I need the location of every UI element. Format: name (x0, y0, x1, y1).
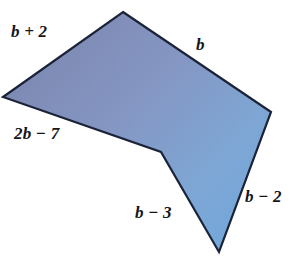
edge-label-upper-right: b (196, 36, 205, 53)
edge-label-lower-inner: b − 3 (135, 204, 172, 221)
edge-label-right: b − 2 (245, 188, 282, 205)
edge-label-upper-left: b + 2 (11, 23, 47, 40)
figure-canvas: b + 2 b 2b − 7 b − 3 b − 2 (0, 0, 302, 257)
edge-label-lower-left: 2b − 7 (14, 125, 60, 142)
